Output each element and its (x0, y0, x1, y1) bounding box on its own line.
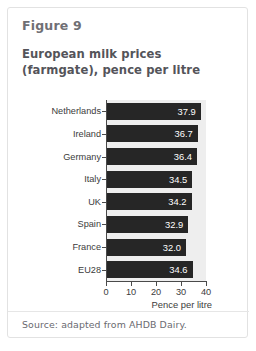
x-axis-tick (181, 282, 182, 286)
category-label: EU28 (8, 265, 101, 275)
category-label: UK (8, 197, 101, 207)
category-label: Ireland (8, 129, 101, 139)
x-axis-tick (156, 282, 157, 286)
bar-value-label: 34.6 (169, 261, 187, 278)
bar-value-label: 36.4 (174, 148, 192, 165)
figure-title: European milk prices (farmgate), pence p… (22, 46, 234, 78)
x-axis-tick-label: 40 (196, 287, 216, 297)
source-divider (8, 311, 249, 312)
bar-value-label: 36.7 (175, 125, 193, 142)
bar-row: 34.2 (106, 193, 206, 210)
x-axis-title: Pence per litre (106, 299, 212, 310)
x-axis-tick-label: 30 (171, 287, 191, 297)
bar-value-label: 37.9 (178, 103, 196, 120)
bar-value-label: 32.9 (165, 216, 183, 233)
bar-row: 37.9 (106, 103, 206, 120)
bar-row: 32.9 (106, 216, 206, 233)
y-axis-spine (106, 100, 107, 281)
category-label: Spain (8, 219, 101, 229)
category-label: Netherlands (8, 106, 101, 116)
category-axis-labels: NetherlandsIrelandGermanyItalyUKSpainFra… (8, 100, 101, 281)
bars-layer: 37.936.736.434.534.232.932.034.6 (106, 100, 206, 281)
bar-row: 36.7 (106, 125, 206, 142)
figure-card: Figure 9 European milk prices (farmgate)… (7, 7, 248, 338)
x-axis-tick (106, 282, 107, 286)
figure-label: Figure 9 (22, 18, 82, 33)
x-axis-tick-label: 0 (96, 287, 116, 297)
x-axis-tick-label: 10 (121, 287, 141, 297)
bar-row: 34.5 (106, 171, 206, 188)
bar-value-label: 32.0 (163, 239, 181, 256)
source-note: Source: adapted from AHDB Dairy. (22, 319, 187, 330)
category-label: Italy (8, 174, 101, 184)
category-label: France (8, 242, 101, 252)
x-axis-tick (131, 282, 132, 286)
category-label: Germany (8, 152, 101, 162)
bar-row: 32.0 (106, 239, 206, 256)
bar-value-label: 34.2 (168, 193, 186, 210)
x-axis-tick-label: 20 (146, 287, 166, 297)
bar-row: 36.4 (106, 148, 206, 165)
x-axis-tick (206, 282, 207, 286)
bar-value-label: 34.5 (169, 171, 187, 188)
bar-chart: NetherlandsIrelandGermanyItalyUKSpainFra… (8, 96, 249, 311)
bar-row: 34.6 (106, 261, 206, 278)
